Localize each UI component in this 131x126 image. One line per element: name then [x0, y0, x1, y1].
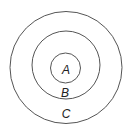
label-c: C	[62, 107, 71, 121]
label-a: A	[61, 63, 70, 77]
label-b: B	[61, 86, 69, 100]
concentric-circles-diagram: A B C	[0, 0, 131, 126]
